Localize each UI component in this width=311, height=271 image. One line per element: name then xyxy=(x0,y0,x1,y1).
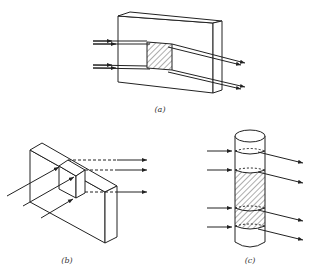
cylinder-top xyxy=(235,130,265,142)
hatched-region xyxy=(147,42,172,70)
panel-b xyxy=(7,143,147,243)
label-c: (c) xyxy=(245,256,256,265)
slab-side xyxy=(105,186,117,243)
label-a: (a) xyxy=(154,105,165,114)
hatched-section xyxy=(235,170,265,229)
panel-a xyxy=(93,12,245,93)
label-b: (b) xyxy=(61,256,72,265)
diagram-canvas: (a) (b) xyxy=(0,0,311,271)
panel-c xyxy=(207,130,303,247)
